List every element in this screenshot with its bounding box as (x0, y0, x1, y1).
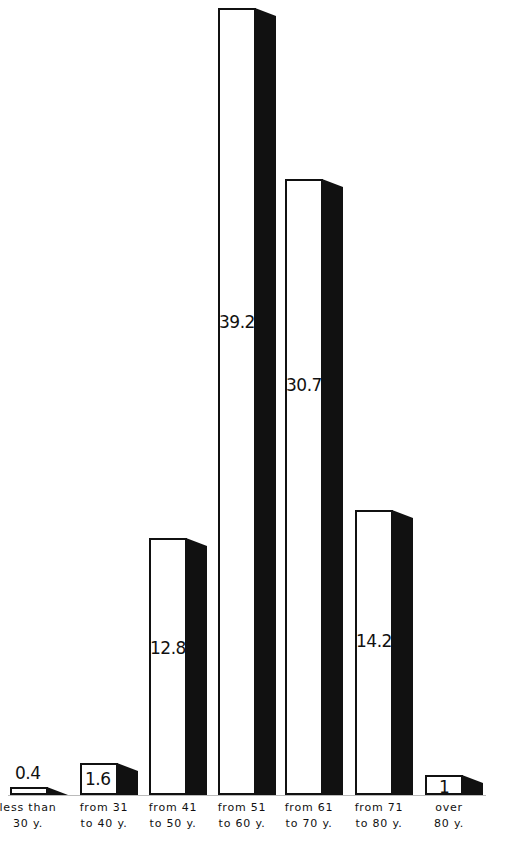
value-label: 30.7 (286, 375, 322, 395)
value-label: 14.2 (356, 631, 392, 651)
bar-side-face (186, 538, 207, 795)
bar-front-face (355, 510, 393, 795)
bar-front-face (10, 787, 48, 795)
bar-front-face (285, 179, 323, 795)
baseline (8, 795, 486, 796)
bar-side-face (117, 763, 138, 795)
value-label: 39.2 (219, 312, 255, 332)
value-label: 1.6 (85, 769, 111, 789)
bar-front-face (218, 8, 256, 795)
bar-6 (355, 510, 414, 795)
bar-3 (149, 538, 208, 795)
bar-4 (218, 8, 277, 795)
x-tick-label: from 51to 60 y. (206, 800, 278, 832)
bar-7 (425, 775, 484, 795)
x-tick-label: from 41to 50 y. (137, 800, 209, 832)
x-tick-label: over80 y. (413, 800, 485, 832)
value-label: 12.8 (150, 638, 186, 658)
value-label: 1 (439, 777, 449, 797)
bar-side-face (47, 787, 68, 795)
x-tick-label: less than30 y. (0, 800, 64, 832)
bar-side-face (392, 510, 413, 795)
bar-5 (285, 179, 344, 795)
x-tick-label: from 31to 40 y. (68, 800, 140, 832)
value-label: 0.4 (15, 763, 41, 783)
x-tick-label: from 61to 70 y. (273, 800, 345, 832)
bar-side-face (255, 8, 276, 795)
bar-front-face (149, 538, 187, 795)
bar-side-face (462, 775, 483, 795)
bar-side-face (322, 179, 343, 795)
bar-1 (10, 787, 69, 795)
bar-chart: 0.4less than30 y.1.6from 31to 40 y.12.8f… (0, 0, 517, 841)
x-tick-label: from 71to 80 y. (343, 800, 415, 832)
